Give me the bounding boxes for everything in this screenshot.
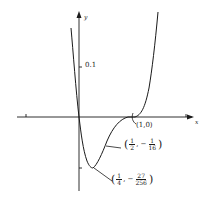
- minimum-y-frac: 27256: [134, 173, 147, 187]
- inflection-x-frac: 12: [129, 138, 135, 152]
- minimum-x-frac: 14: [116, 173, 122, 187]
- x-axis-arrow-icon: [187, 115, 194, 120]
- inflection-label: ( 12 , − 116 ): [124, 138, 162, 152]
- x-axis-label: x: [195, 119, 198, 125]
- inflection-leader: [106, 146, 121, 148]
- y-axis-arrow-icon: [77, 11, 82, 18]
- y-tick-label: 0.1: [85, 62, 96, 69]
- minimum-leader: [94, 168, 112, 181]
- function-plot: [0, 0, 204, 208]
- root-label: (1,0): [136, 122, 153, 129]
- minimum-label: ( 14 , − 27256 ): [111, 173, 153, 187]
- inflection-y-frac: 116: [147, 138, 157, 152]
- y-axis-label: y: [84, 14, 87, 20]
